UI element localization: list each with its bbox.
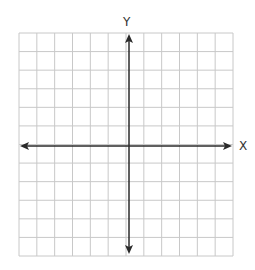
coordinate-plane	[0, 0, 255, 270]
grid-lines	[19, 33, 233, 256]
x-axis-label: X	[239, 139, 247, 153]
y-axis-label: Y	[123, 15, 130, 29]
